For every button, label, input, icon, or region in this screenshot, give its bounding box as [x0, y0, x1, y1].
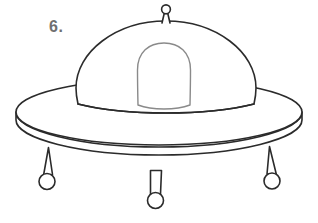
exercise-number-label: 6.	[49, 19, 63, 35]
landing-leg-center-foot	[148, 193, 164, 209]
cockpit-window	[138, 43, 191, 109]
drawing-page: 6.	[0, 0, 318, 223]
landing-leg-left-foot	[39, 174, 55, 190]
antenna-knob	[162, 5, 171, 14]
landing-leg-right-foot	[264, 173, 280, 189]
antenna-stalk	[162, 14, 170, 24]
landing-leg-center-strut	[151, 171, 162, 195]
ufo-line-drawing	[0, 0, 318, 223]
